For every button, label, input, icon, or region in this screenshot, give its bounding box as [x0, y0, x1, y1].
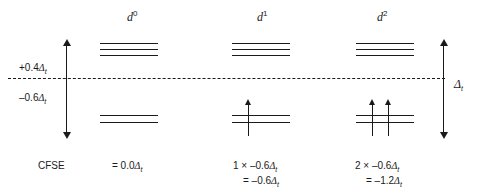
d2-electron-1-spin-up-arrow — [372, 104, 373, 136]
d2-lower-level-2 — [356, 122, 414, 123]
d2-cfse-line-2-sub: t — [400, 181, 402, 188]
d2-lower-level-1 — [356, 115, 414, 116]
d2-cfse-line-1: 2 × –0.6Δt — [355, 160, 399, 173]
total-splitting-subscript: t — [461, 85, 463, 92]
right-splitting-axis-line — [443, 45, 444, 133]
column-header-d0: d0 — [127, 8, 137, 23]
d1-cfse-line-2-text: = –0.6 — [243, 175, 271, 186]
d2-electron-1-arrowhead-icon — [369, 99, 375, 105]
d1-upper-level-3 — [232, 55, 290, 56]
total-splitting-label: Δt — [454, 79, 463, 94]
left-axis-down-arrowhead-icon — [63, 132, 71, 139]
column-header-d1: d1 — [257, 8, 267, 23]
d2-electron-2-arrowhead-icon — [385, 99, 391, 105]
total-splitting-delta-symbol: Δ — [454, 77, 461, 91]
column-header-d1-superscript: 1 — [263, 9, 267, 18]
d2-electron-2-spin-up-arrow — [388, 104, 389, 136]
upper-split-subscript: t — [45, 68, 47, 75]
d1-cfse-line-1-sub: t — [275, 166, 277, 173]
d2-upper-level-2 — [356, 49, 414, 50]
lower-split-value: –0.6 — [19, 92, 38, 103]
d0-lower-level-1 — [100, 115, 158, 116]
d1-cfse-line-2-sub: t — [277, 181, 279, 188]
d1-upper-level-2 — [232, 49, 290, 50]
d0-cfse-line-1-sub: t — [140, 166, 142, 173]
d2-cfse-line-1-text: 2 × –0.6 — [355, 160, 391, 171]
d1-electron-1-spin-up-arrow — [248, 104, 249, 136]
right-axis-down-arrowhead-icon — [440, 132, 448, 139]
d2-upper-level-3 — [356, 55, 414, 56]
column-header-d2: d2 — [377, 8, 387, 23]
d0-upper-level-3 — [100, 55, 158, 56]
d1-cfse-line-2: = –0.6Δt — [243, 175, 279, 188]
right-axis-up-arrowhead-icon — [440, 39, 448, 46]
barycentre-dashed-line — [8, 78, 445, 79]
column-header-d2-superscript: 2 — [383, 9, 387, 18]
d1-lower-level-1 — [232, 115, 290, 116]
d2-cfse-line-1-sub: t — [397, 166, 399, 173]
d1-cfse-line-1-text: 1 × –0.6 — [233, 160, 269, 171]
upper-split-label: +0.4Δt — [19, 62, 47, 77]
upper-split-value: +0.4 — [19, 62, 39, 73]
column-header-d0-superscript: 0 — [133, 9, 137, 18]
d2-cfse-line-2-text: = –1.2 — [366, 175, 394, 186]
left-axis-up-arrowhead-icon — [63, 39, 71, 46]
d2-upper-level-1 — [356, 43, 414, 44]
d0-cfse-line-1-text: = 0.0 — [112, 160, 135, 171]
d1-cfse-line-1: 1 × –0.6Δt — [233, 160, 277, 173]
d0-cfse-line-1: = 0.0Δt — [112, 160, 142, 173]
d1-electron-1-arrowhead-icon — [245, 99, 251, 105]
crystal-field-splitting-diagram: d0 d1 d2 +0.4Δt –0.6Δt Δt — [0, 0, 477, 192]
lower-split-label: –0.6Δt — [19, 92, 46, 107]
d0-upper-level-1 — [100, 43, 158, 44]
d2-cfse-line-2: = –1.2Δt — [366, 175, 402, 188]
d0-upper-level-2 — [100, 49, 158, 50]
left-energy-axis-line — [66, 45, 67, 133]
lower-split-subscript: t — [44, 98, 46, 105]
d0-lower-level-2 — [100, 122, 158, 123]
cfse-row-label: CFSE — [38, 160, 65, 171]
d1-upper-level-1 — [232, 43, 290, 44]
d1-lower-level-2 — [232, 122, 290, 123]
